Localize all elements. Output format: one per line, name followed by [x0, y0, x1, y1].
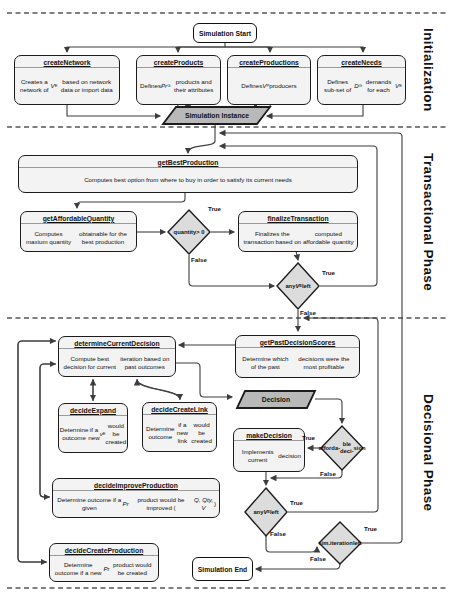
get-past-decision-scores-title: getPastDecisionScores — [236, 336, 359, 348]
determine-current-decision-title: determineCurrentDecision — [59, 337, 175, 349]
trans-any-false-label: False — [300, 309, 316, 316]
get-best-production-title: getBestProduction — [19, 156, 357, 168]
trans-any-true-label: True — [322, 269, 335, 276]
phase-label-transactional: Transactional Phase — [412, 129, 444, 316]
edge-network-instance — [67, 105, 160, 116]
quantity-true-label: True — [208, 205, 221, 212]
create-products-title: createProducts — [137, 56, 220, 68]
create-network-body: Creates a network of VE based on network… — [15, 68, 119, 104]
edge-simiter-false-end — [256, 564, 340, 569]
edge-start-createneeds — [225, 47, 363, 52]
decide-create-production-node: decideCreateProduction Determine outcome… — [49, 543, 159, 582]
edge-determine-createprod — [18, 341, 56, 562]
create-products-node: createProducts Defines PrG products and … — [136, 55, 221, 105]
decision-label: Decision — [241, 391, 311, 408]
make-decision-title: makeDecision — [234, 429, 304, 441]
edge-determine-decision — [176, 363, 232, 397]
get-affordable-quantity-node: getAffordableQuantity Computes maxium qu… — [20, 211, 137, 252]
dec-any-true-label: True — [290, 499, 303, 506]
make-decision-body: Implements currentdecision — [234, 441, 304, 471]
afford-true-label: True — [302, 434, 315, 441]
finalize-transaction-node: finalizeTransaction Finalizes the transa… — [238, 211, 358, 252]
edge-instance-getbest — [188, 124, 215, 153]
edge-determine-createlink — [137, 379, 180, 399]
create-needs-body: Defines sub-set of DG demands for each V… — [318, 68, 405, 104]
determine-current-decision-node: determineCurrentDecision Compute best de… — [58, 336, 176, 377]
decide-create-link-title: decideCreateLink — [143, 403, 216, 415]
dec-any-false-label: False — [270, 530, 286, 537]
decide-create-production-body: Determine outcome if a newPr product wou… — [50, 556, 158, 581]
sim-iter-true-label: True — [364, 525, 377, 532]
determine-current-decision-body: Compute best decision for currentiterati… — [59, 349, 175, 376]
edge-anyve-false-simiter — [266, 536, 317, 552]
edge-improve-determine — [40, 364, 55, 497]
edge-start-createproductions — [225, 47, 270, 52]
decide-improve-production-body: Determine outcome if a given Prproduct w… — [53, 491, 219, 517]
get-affordable-quantity-body: Computes maxium quantityobtainable for t… — [21, 224, 136, 251]
create-products-body: Defines PrG products and their attribute… — [137, 68, 220, 104]
edge-determine-improve — [40, 364, 56, 497]
decide-expand-body: Determine outcomeif a new vEwould be cre… — [59, 416, 127, 452]
get-past-decision-scores-body: Determine which of the pastdecisions wer… — [236, 348, 359, 377]
finalize-transaction-body: Finalizes the transaction based oncomput… — [239, 224, 357, 251]
sim-iter-false-label: False — [310, 555, 326, 562]
decide-create-link-body: Determine outcomeif a new linkwould be c… — [143, 415, 216, 451]
decide-improve-production-node: decideImproveProduction Determine outcom… — [52, 478, 220, 518]
edge-createprod-determine — [18, 341, 55, 562]
flowchart: Simulation Start Simulation End createNe… — [0, 0, 452, 602]
quantity-false-label: False — [191, 256, 207, 263]
make-decision-node: makeDecision Implements currentdecision — [233, 428, 305, 472]
quantity-diamond-label: quantity> 0 — [168, 210, 210, 254]
edge-createlink-determine — [137, 380, 180, 400]
get-best-production-node: getBestProduction Computes best option f… — [18, 155, 358, 193]
simulation-end-node: Simulation End — [192, 557, 253, 581]
get-best-production-body: Computes best option from where to buy i… — [19, 168, 357, 192]
edge-start-createproducts — [178, 47, 225, 52]
phase-label-decisional: Decisional Phase — [412, 320, 444, 586]
edge-getbest-affordable — [77, 193, 185, 208]
edge-needs-instance — [267, 105, 363, 116]
decide-create-production-title: decideCreateProduction — [50, 544, 158, 556]
create-needs-title: createNeeds — [318, 56, 405, 68]
afford-false-label: False — [320, 470, 336, 477]
get-affordable-quantity-title: getAffordableQuantity — [21, 212, 136, 224]
edge-finalize-anyve — [296, 251, 298, 260]
create-network-title: createNetwork — [15, 56, 119, 68]
decide-expand-title: decideExpand — [59, 404, 127, 416]
create-needs-node: createNeeds Defines sub-set of DG demand… — [317, 55, 406, 105]
create-network-node: createNetwork Creates a network of VE ba… — [14, 55, 120, 105]
decide-create-link-node: decideCreateLink Determine outcomeif a n… — [142, 402, 217, 452]
finalize-transaction-title: finalizeTransaction — [239, 212, 357, 224]
any-ve-left-dec-label: anyVEleft — [245, 488, 287, 536]
phase-label-initialization: Initialization — [412, 15, 444, 125]
decide-improve-production-title: decideImproveProduction — [53, 479, 219, 491]
get-past-decision-scores-node: getPastDecisionScores Determine which of… — [235, 335, 360, 378]
affordable-decision-label: afforda-ble deci-sion — [321, 426, 363, 470]
edge-decision-affordable — [315, 399, 342, 423]
create-productions-body: Defines VP producers — [228, 68, 310, 104]
any-ve-left-trans-label: anyVEleft — [277, 263, 319, 309]
create-productions-title: createProductions — [228, 56, 310, 68]
decide-expand-node: decideExpand Determine outcomeif a new v… — [58, 403, 128, 453]
simulation-instance-label: Simulation Instance — [170, 107, 264, 124]
create-productions-node: createProductions Defines VP producers — [227, 55, 311, 105]
simulation-start-node: Simulation Start — [193, 23, 257, 43]
